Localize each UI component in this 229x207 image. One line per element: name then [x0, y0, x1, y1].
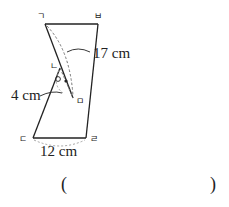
label-digeut: ㄷ — [19, 134, 27, 144]
measure-17cm: 17 cm — [93, 45, 130, 61]
label-giyeok: ㄱ — [37, 11, 45, 21]
fold-line — [60, 68, 73, 98]
measure-4cm: 4 cm — [11, 87, 41, 103]
angle-dot-mark — [64, 79, 67, 82]
right-edge — [86, 24, 98, 138]
measure-12cm: 12 cm — [40, 143, 77, 159]
answer-blank[interactable] — [75, 174, 205, 194]
pointer-17cm — [67, 49, 90, 52]
label-rieul: ㄹ — [90, 134, 98, 144]
pointer-4cm — [40, 92, 62, 96]
label-mieum: ㅁ — [76, 96, 84, 106]
label-bieup: ㅂ — [94, 11, 102, 21]
answer-close-paren: ) — [210, 174, 216, 195]
label-nieun: ㄴ — [50, 61, 58, 71]
answer-open-paren: ( — [61, 174, 67, 195]
